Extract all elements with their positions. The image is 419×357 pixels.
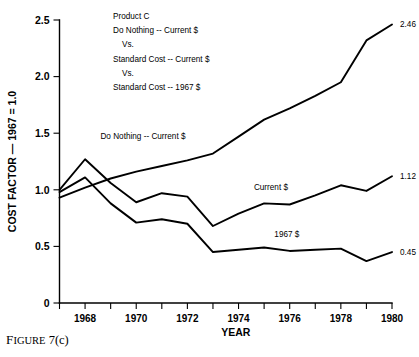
series-annotations: Do Nothing -- Current $Current $1967 $ [100,132,299,239]
end-value-labels: 2.461.120.45 [400,20,416,257]
title-block-line: Standard Cost -- Current $ [113,55,210,64]
x-tick-label: 1972 [176,313,199,324]
cost-factor-line-chart: 00.51.01.52.02.5 19681970197219741976197… [0,0,419,357]
figure-caption-number: 7(c) [49,333,69,347]
series-line-1 [60,25,393,198]
series-annotation: 1967 $ [274,230,299,239]
x-tick-label: 1970 [125,313,148,324]
y-tick-label: 2.0 [35,70,50,82]
series-annotation: Current $ [254,183,289,192]
y-tick-label: 1.0 [35,184,50,196]
axes-group [54,20,393,309]
x-axis-ticks [60,303,393,309]
y-tick-label: 0 [44,297,50,309]
title-block-line: Vs. [122,69,134,78]
x-tick-label: 1974 [227,313,250,324]
y-tick-label: 1.5 [35,127,50,139]
y-axis-tick-labels: 00.51.01.52.02.5 [35,14,50,309]
x-tick-label: 1968 [74,313,97,324]
series-annotation: Do Nothing -- Current $ [100,132,186,141]
y-axis-ticks [54,20,60,303]
y-tick-label: 0.5 [35,240,50,252]
title-block-line: Vs. [122,40,134,49]
x-axis-title: YEAR [221,326,251,338]
title-block-line: Do Nothing -- Current $ [113,26,199,35]
y-tick-label: 2.5 [35,14,50,26]
x-tick-label: 1978 [330,313,353,324]
y-axis-title: COST FACTOR — 1967 = 1.0 [6,91,18,232]
title-block-line: Product C [113,12,149,21]
x-tick-label: 1976 [279,313,302,324]
series-end-value: 2.46 [400,20,416,29]
figure-caption: FIGURE 7(c) [6,332,69,348]
title-block-line: Standard Cost -- 1967 $ [113,83,201,92]
x-axis-tick-labels: 1968197019721974197619781980 [74,313,404,324]
series-end-value: 1.12 [400,172,416,181]
x-tick-label: 1980 [381,313,404,324]
series-line-2 [60,159,393,226]
figure-caption-word: IGURE [13,335,45,346]
series-group [60,25,393,262]
series-end-value: 0.45 [400,248,416,257]
figure-container: 00.51.01.52.02.5 19681970197219741976197… [0,0,419,357]
title-block: Product CDo Nothing -- Current $Vs.Stand… [113,12,210,92]
